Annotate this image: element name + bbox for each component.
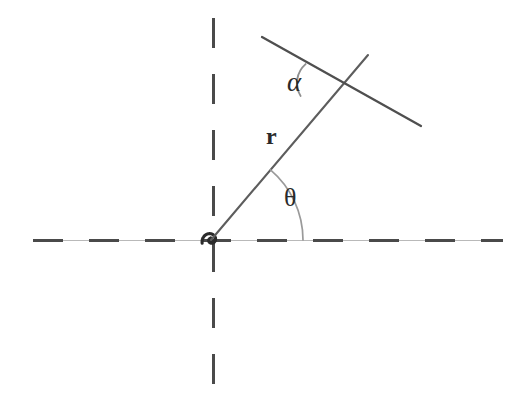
polar-angle-label-theta: θ [284, 185, 296, 211]
tangent-angle-label-alpha: α [287, 69, 301, 96]
spiral-diagram-figure: α r θ [0, 0, 527, 414]
radius-label-r: r [266, 124, 277, 148]
tangent-line [262, 37, 421, 126]
spiral-diagram-canvas [0, 0, 527, 414]
